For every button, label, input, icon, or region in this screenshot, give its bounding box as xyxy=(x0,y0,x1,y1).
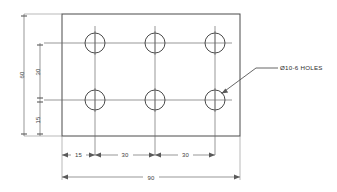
arrow-seg3-left xyxy=(155,153,161,158)
dimension-edge-to-first-hole: 15 xyxy=(75,152,83,158)
arrow-seg1-right xyxy=(89,153,95,158)
arrow-seg1-left xyxy=(62,153,68,158)
dimension-bottom-offset: 15 xyxy=(35,116,41,124)
engineering-drawing-svg: 60 30 15 15 30 30 xyxy=(0,0,337,192)
arrow-seg2-right xyxy=(149,153,155,158)
leader-line-hole-note xyxy=(222,68,279,94)
technical-drawing-canvas: 60 30 15 15 30 30 xyxy=(0,0,337,192)
arrow-seg2-left xyxy=(95,153,101,158)
plate-outline xyxy=(62,14,240,136)
arrow-seg3-right xyxy=(209,153,215,158)
dimension-second-to-third-hole: 30 xyxy=(182,152,190,158)
arrow-overall-left xyxy=(62,175,68,180)
hole-note-label: Ø10-6 HOLES xyxy=(280,64,323,71)
dimension-first-to-second-hole: 30 xyxy=(121,152,129,158)
arrow-overall-right xyxy=(234,175,240,180)
dimension-overall-height: 60 xyxy=(19,71,25,79)
dimension-overall-width: 90 xyxy=(147,175,155,181)
dimension-row-spacing: 30 xyxy=(35,68,41,76)
